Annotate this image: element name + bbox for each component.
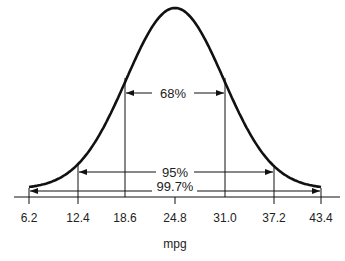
label-95: 95% [162, 165, 188, 180]
tick-label-37-2: 37.2 [262, 211, 286, 225]
normal-distribution-chart: 68% 95% 99.7% 6.2 12.4 18.6 24.8 31.0 37… [0, 0, 345, 261]
tick-label-24-8: 24.8 [163, 211, 187, 225]
label-997: 99.7% [157, 179, 194, 194]
x-axis-label: mpg [163, 237, 186, 251]
tick-label-18-6: 18.6 [113, 211, 137, 225]
label-68: 68% [160, 86, 186, 101]
tick-label-43-4: 43.4 [309, 211, 333, 225]
tick-label-6-2: 6.2 [21, 211, 38, 225]
tick-label-12-4: 12.4 [66, 211, 90, 225]
tick-label-31-0: 31.0 [213, 211, 237, 225]
